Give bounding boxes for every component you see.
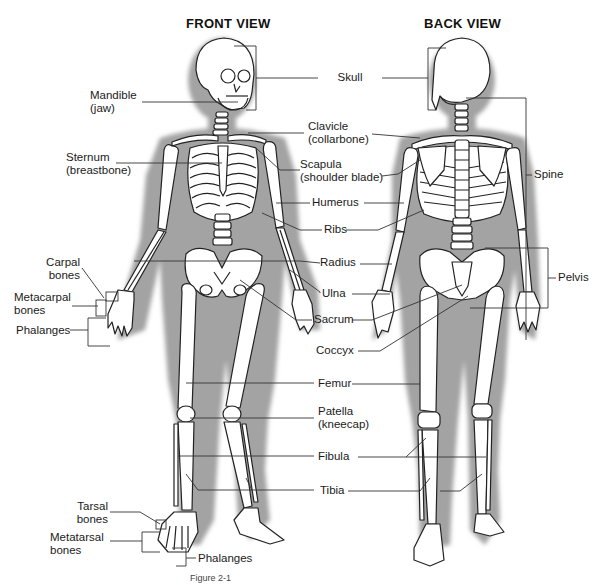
label-ulna: Ulna — [322, 287, 346, 300]
front-patella-right — [223, 406, 241, 422]
label-sternum-line2: (breastbone) — [66, 164, 131, 177]
label-metatarsal: Metatarsal bones — [50, 531, 104, 557]
front-hand-left — [108, 290, 134, 336]
skeleton-diagram: FRONT VIEW BACK VIEW Skull Mandible (jaw… — [0, 0, 598, 585]
label-humerus: Humerus — [312, 196, 359, 209]
label-sacrum: Sacrum — [314, 313, 354, 326]
front-sternum — [218, 146, 228, 196]
label-clavicle-line1: Clavicle — [308, 120, 369, 133]
label-sternum-line1: Sternum — [66, 151, 131, 164]
label-spine: Spine — [534, 168, 563, 181]
label-metatarsal-line2: bones — [50, 544, 104, 557]
skeleton-artwork — [0, 0, 598, 585]
label-tarsal: Tarsal bones — [56, 500, 108, 526]
label-ribs: Ribs — [324, 223, 347, 236]
label-phalanges-hand: Phalanges — [16, 324, 70, 337]
label-patella-line1: Patella — [318, 405, 369, 418]
label-patella: Patella (kneecap) — [318, 405, 369, 431]
label-metacarpal-line1: Metacarpal — [14, 291, 71, 304]
front-fibula-left — [174, 424, 178, 506]
label-tarsal-line2: bones — [56, 513, 108, 526]
label-patella-line2: (kneecap) — [318, 418, 369, 431]
front-foot-right — [234, 508, 284, 544]
label-metacarpal: Metacarpal bones — [14, 291, 71, 317]
front-foot-left — [158, 512, 198, 552]
label-carpal-line2: bones — [30, 269, 80, 282]
label-carpal: Carpal bones — [30, 256, 80, 282]
label-carpal-line1: Carpal — [30, 256, 80, 269]
label-scapula-line2: (shoulder blade) — [300, 171, 383, 184]
front-lumbar-spine — [213, 214, 232, 245]
back-spine — [455, 104, 468, 131]
back-view-title: BACK VIEW — [424, 16, 501, 31]
label-sternum: Sternum (breastbone) — [66, 151, 131, 177]
label-metacarpal-line2: bones — [14, 304, 71, 317]
label-mandible-line2: (jaw) — [90, 102, 137, 115]
front-view-title: FRONT VIEW — [186, 16, 271, 31]
label-mandible: Mandible (jaw) — [90, 89, 137, 115]
label-mandible-line1: Mandible — [90, 89, 137, 102]
label-phalanges-foot: Phalanges — [198, 552, 252, 565]
label-clavicle: Clavicle (collarbone) — [308, 120, 369, 146]
label-scapula: Scapula (shoulder blade) — [300, 158, 383, 184]
label-tibia: Tibia — [320, 484, 345, 497]
label-radius: Radius — [320, 256, 356, 269]
figure-caption: Figure 2-1 — [190, 573, 231, 583]
label-coccyx: Coccyx — [316, 344, 354, 357]
label-femur: Femur — [318, 377, 351, 390]
label-fibula: Fibula — [318, 450, 349, 463]
label-metatarsal-line1: Metatarsal — [50, 531, 104, 544]
label-clavicle-line2: (collarbone) — [308, 133, 369, 146]
front-patella-left — [177, 406, 195, 422]
label-pelvis: Pelvis — [558, 271, 589, 284]
label-tarsal-line1: Tarsal — [56, 500, 108, 513]
label-scapula-line1: Scapula — [300, 158, 383, 171]
label-skull: Skull — [320, 71, 380, 84]
